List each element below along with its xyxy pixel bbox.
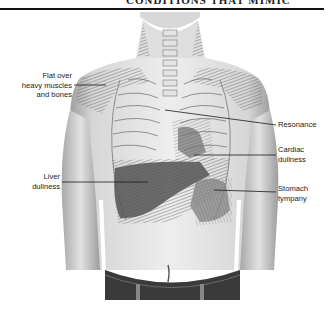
- label-line: Cardiac: [278, 145, 306, 155]
- label-flat-over-heavy-muscles: Flat over heavy muscles and bones: [2, 71, 72, 100]
- label-line: dullness: [2, 182, 60, 192]
- label-line: dullness: [278, 155, 306, 165]
- label-cardiac-dullness: Cardiac dullness: [278, 145, 306, 164]
- label-line: Resonance: [278, 120, 316, 130]
- sternum: [163, 30, 177, 96]
- jeans-waistband: [105, 270, 240, 300]
- label-stomach-tympany: Stomach tympany: [278, 184, 308, 203]
- label-line: heavy muscles: [2, 81, 72, 91]
- label-liver-dullness: Liver dullness: [2, 172, 60, 191]
- navel: [168, 265, 169, 282]
- label-line: and bones: [2, 90, 72, 100]
- label-line: Liver: [2, 172, 60, 182]
- label-line: Stomach: [278, 184, 308, 194]
- label-line: tympany: [278, 194, 308, 204]
- label-line: Flat over: [2, 71, 72, 81]
- label-resonance: Resonance: [278, 120, 316, 130]
